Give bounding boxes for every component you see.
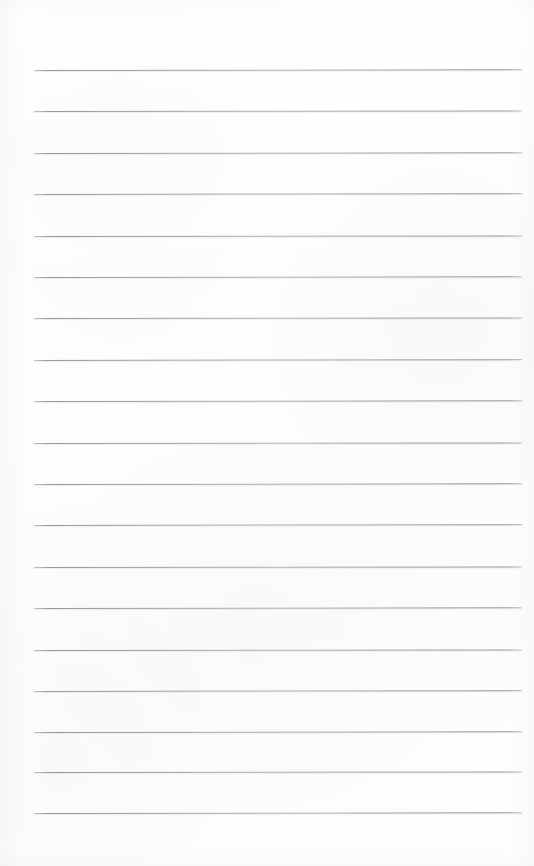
- rule-line: [34, 317, 522, 319]
- rule-line: [34, 193, 522, 195]
- rule-line: [34, 649, 522, 651]
- notebook-page: [0, 0, 534, 866]
- rule-line: [34, 690, 522, 692]
- rule-line: [34, 359, 522, 361]
- rule-line: [34, 152, 522, 154]
- rule-line: [34, 276, 522, 278]
- rule-line: [34, 731, 522, 733]
- rule-line: [34, 483, 522, 485]
- ruled-lines-group: [0, 0, 534, 866]
- rule-line: [34, 607, 522, 609]
- rule-line: [34, 771, 522, 773]
- rule-line: [34, 442, 522, 444]
- rule-line: [34, 524, 522, 526]
- rule-line: [34, 110, 522, 112]
- rule-line: [34, 566, 522, 568]
- rule-line: [34, 400, 522, 402]
- rule-line: [34, 812, 522, 814]
- rule-line: [34, 69, 522, 71]
- rule-line: [34, 235, 522, 237]
